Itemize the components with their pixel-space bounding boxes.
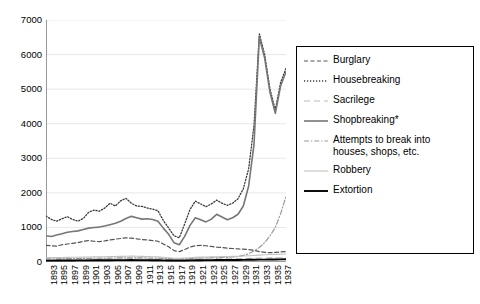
y-tick-label: 1000 [21,223,42,233]
x-tick-label: 1905 [114,265,123,285]
x-tick-label: 1895 [60,265,69,285]
series-line-housebreaking [46,34,286,238]
x-tick-label: 1935 [274,265,283,285]
chart-legend: BurglaryHousebreakingSacrilegeShopbreaki… [296,46,474,254]
legend-item[interactable]: Robbery [303,164,467,177]
y-tick-label: 3000 [21,154,42,164]
series-line-burglary [46,238,286,253]
y-tick-label: 0 [37,257,42,267]
x-tick-label: 1937 [284,265,293,285]
x-tick-label: 1925 [220,265,229,285]
x-tick-label: 1913 [156,265,165,285]
legend-swatch-icon [303,95,329,107]
legend-item[interactable]: Attempts to break into houses, shops, et… [303,134,467,157]
x-tick-label: 1931 [252,265,261,285]
legend-label: Extortion [333,184,372,196]
x-tick-label: 1917 [178,265,187,285]
legend-item[interactable]: Shopbreaking* [303,114,467,127]
chart-root: 01000200030004000500060007000 1893189518… [0,0,480,304]
x-tick-label: 1911 [146,265,155,284]
legend-item[interactable]: Sacrilege [303,94,467,107]
x-tick-label: 1915 [167,265,176,285]
legend-swatch-icon [303,165,329,177]
legend-label: Burglary [333,54,370,66]
x-tick-label: 1921 [199,265,208,285]
x-tick-label: 1929 [242,265,251,285]
x-tick-label: 1897 [71,265,80,285]
x-tick-label: 1901 [92,265,101,285]
legend-item[interactable]: Extortion [303,184,467,197]
x-axis-labels: 1893189518971899190119031905190719091911… [46,265,286,304]
y-tick-label: 2000 [21,188,42,198]
x-tick-label: 1927 [231,265,240,285]
series-line-extortion [46,259,286,260]
plot-svg [46,20,286,262]
x-tick-label: 1923 [210,265,219,285]
x-tick-label: 1909 [135,265,144,285]
legend-label: Housebreaking [333,74,400,86]
x-tick-label: 1899 [82,265,91,285]
x-tick-label: 1903 [103,265,112,285]
series-line-shopbreaking [46,37,286,244]
x-tick-label: 1919 [188,265,197,285]
legend-swatch-icon [303,135,329,147]
legend-label: Sacrilege [333,94,375,106]
legend-swatch-icon [303,185,329,197]
y-tick-label: 4000 [21,119,42,129]
legend-swatch-icon [303,115,329,127]
legend-swatch-icon [303,55,329,67]
legend-label: Robbery [333,164,371,176]
x-tick-label: 1893 [50,265,59,285]
legend-label: Attempts to break into houses, shops, et… [333,134,467,157]
y-axis-labels: 01000200030004000500060007000 [0,0,42,304]
legend-swatch-icon [303,75,329,87]
y-tick-label: 7000 [21,15,42,25]
y-tick-label: 5000 [21,84,42,94]
x-tick-label: 1933 [263,265,272,285]
x-tick-label: 1907 [124,265,133,285]
plot-area [46,20,286,262]
legend-item[interactable]: Housebreaking [303,74,467,87]
series-line-robbery [46,254,286,258]
y-tick-label: 6000 [21,50,42,60]
legend-label: Shopbreaking* [333,114,399,126]
legend-item[interactable]: Burglary [303,54,467,67]
